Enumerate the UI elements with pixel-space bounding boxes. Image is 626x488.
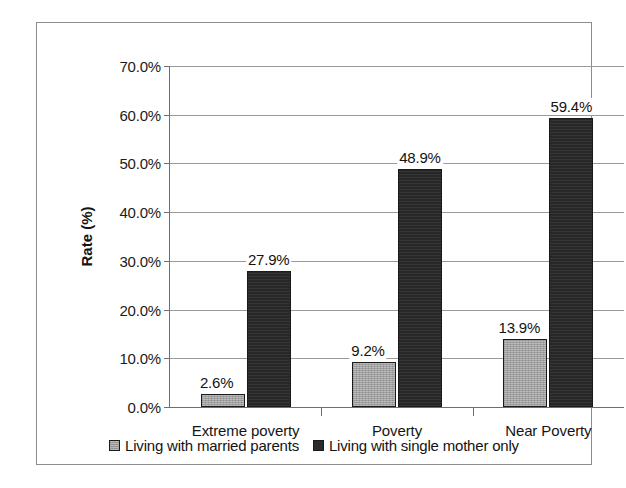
bar-single-mother-1 bbox=[398, 169, 442, 407]
bar-married-parents-2 bbox=[503, 339, 547, 407]
data-label: 48.9% bbox=[397, 149, 443, 166]
bar-single-mother-2 bbox=[549, 118, 593, 407]
data-label: 2.6% bbox=[198, 374, 235, 391]
data-label: 13.9% bbox=[497, 319, 543, 336]
legend-swatch-icon bbox=[313, 440, 324, 451]
y-axis-tick-mark bbox=[164, 212, 170, 213]
y-axis-title: Rate (%) bbox=[75, 66, 97, 407]
y-axis-tick-label: 10.0% bbox=[119, 350, 161, 367]
legend-label: Living with married parents bbox=[125, 437, 299, 454]
bar-single-mother-0 bbox=[247, 271, 291, 407]
y-axis-tick-label: 70.0% bbox=[119, 58, 161, 75]
chart-legend: Living with married parentsLiving with s… bbox=[37, 437, 591, 454]
x-axis-line bbox=[169, 407, 624, 408]
legend-label: Living with single mother only bbox=[329, 437, 519, 454]
y-axis-tick-mark bbox=[164, 66, 170, 67]
gridline bbox=[170, 115, 624, 116]
y-axis-tick-mark bbox=[164, 261, 170, 262]
bar-married-parents-0 bbox=[201, 394, 245, 407]
y-axis-tick-label: 30.0% bbox=[119, 252, 161, 269]
y-axis-tick-mark bbox=[164, 115, 170, 116]
plot-area: 0.0%10.0%20.0%30.0%40.0%50.0%60.0%70.0% … bbox=[170, 66, 624, 407]
y-axis-tick-label: 40.0% bbox=[119, 204, 161, 221]
category-separator bbox=[321, 407, 322, 416]
chart-frame: Rate (%) 0.0%10.0%20.0%30.0%40.0%50.0%60… bbox=[36, 22, 592, 465]
legend-item-married-parents[interactable]: Living with married parents bbox=[109, 437, 299, 454]
legend-item-single-mother[interactable]: Living with single mother only bbox=[313, 437, 519, 454]
y-axis-tick-label: 60.0% bbox=[119, 106, 161, 123]
y-axis-tick-label: 0.0% bbox=[128, 399, 161, 416]
y-axis-title-label: Rate (%) bbox=[78, 206, 95, 266]
legend-swatch-icon bbox=[109, 440, 120, 451]
y-axis-line bbox=[169, 66, 170, 407]
category-separator bbox=[473, 407, 474, 416]
y-axis-tick-label: 20.0% bbox=[119, 301, 161, 318]
y-axis-tick-mark bbox=[164, 163, 170, 164]
gridline bbox=[170, 66, 624, 67]
data-label: 9.2% bbox=[349, 342, 386, 359]
y-axis-tick-label: 50.0% bbox=[119, 155, 161, 172]
y-axis-tick-mark bbox=[164, 310, 170, 311]
data-label: 27.9% bbox=[246, 251, 292, 268]
y-axis-tick-mark bbox=[164, 407, 170, 408]
data-label: 59.4% bbox=[549, 98, 595, 115]
bar-married-parents-1 bbox=[352, 362, 396, 407]
y-axis-tick-mark bbox=[164, 358, 170, 359]
